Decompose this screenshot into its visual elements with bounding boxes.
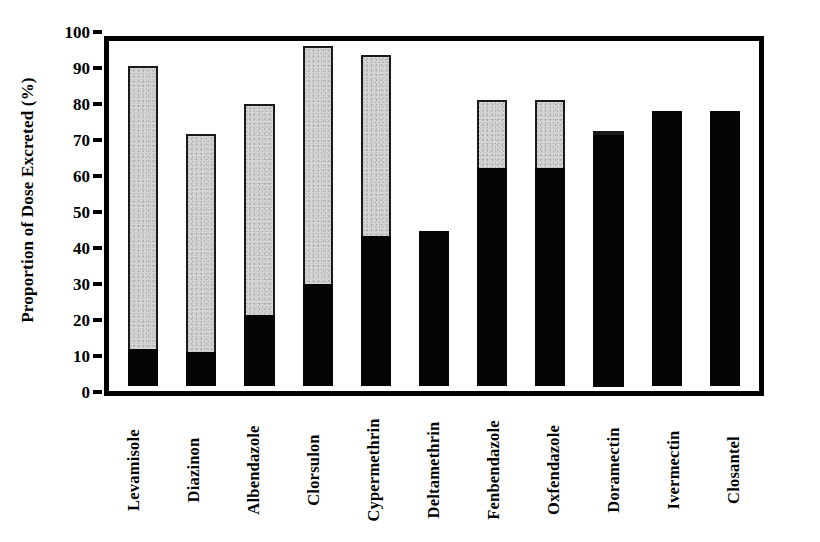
plot-area: [104, 36, 764, 396]
bar-group[interactable]: [361, 46, 391, 386]
x-tick-label: Doramectin: [584, 398, 644, 542]
y-tick-mark: [93, 138, 102, 142]
bar-group[interactable]: [186, 46, 216, 386]
x-tick-label-text: Levamisole: [124, 429, 144, 511]
x-tick-label-text: Doramectin: [604, 427, 624, 512]
bar-segment-black: [535, 168, 565, 386]
y-tick-label: 50: [73, 204, 90, 221]
x-axis-tick-labels: LevamisoleDiazinonAlbendazoleClorsulonCy…: [104, 398, 764, 542]
x-tick-label: Clorsulon: [284, 398, 344, 542]
x-tick-label-text: Diazinon: [184, 438, 204, 503]
y-tick-label: 0: [82, 384, 91, 401]
y-tick-label: 80: [73, 96, 90, 113]
bar-segment-black: [652, 111, 682, 386]
bar-stack[interactable]: [593, 131, 623, 386]
y-tick-label: 70: [73, 132, 90, 149]
bar-segment-gray: [303, 46, 333, 284]
x-tick-label-text: Closantel: [724, 436, 744, 504]
bar-stack[interactable]: [361, 55, 391, 387]
x-tick-label-text: Clorsulon: [304, 434, 324, 505]
bar-stack[interactable]: [419, 231, 449, 386]
x-tick-label: Fenbendazole: [464, 398, 524, 542]
x-tick-label: Oxfendazole: [524, 398, 584, 542]
bar-segment-black: [128, 349, 158, 386]
bar-segment-gray: [535, 100, 565, 168]
bar-segment-black: [593, 135, 623, 387]
x-tick-label: Levamisole: [104, 398, 164, 542]
bar-segment-gray: [477, 100, 507, 168]
bar-group[interactable]: [710, 46, 740, 386]
y-tick-label: 20: [73, 312, 90, 329]
bar-stack[interactable]: [710, 111, 740, 386]
bar-stack[interactable]: [477, 100, 507, 386]
bar-segment-black: [477, 168, 507, 386]
bar-segment-black: [186, 352, 216, 386]
y-tick-mark: [93, 30, 102, 34]
bar-segment-gray: [361, 55, 391, 237]
x-tick-label-text: Cypermethrin: [364, 418, 384, 521]
bar-stack[interactable]: [244, 104, 274, 386]
x-tick-label-text: Albendazole: [244, 425, 264, 514]
y-tick-mark: [93, 354, 102, 358]
y-axis-tick-labels: 1009080706050403020100: [44, 32, 102, 392]
x-tick-label-text: Deltamethrin: [424, 422, 444, 519]
y-tick-mark: [93, 66, 102, 70]
x-tick-label: Ivermectin: [644, 398, 704, 542]
bar-group[interactable]: [303, 46, 333, 386]
x-tick-label: Albendazole: [224, 398, 284, 542]
bars-layer: [114, 46, 754, 386]
bar-group[interactable]: [652, 46, 682, 386]
y-tick-label: 60: [73, 168, 90, 185]
y-tick-label: 100: [65, 24, 91, 41]
x-tick-label: Cypermethrin: [344, 398, 404, 542]
x-tick-label: Diazinon: [164, 398, 224, 542]
bar-segment-gray: [244, 104, 274, 315]
bar-stack[interactable]: [652, 111, 682, 386]
bar-segment-black: [303, 284, 333, 386]
y-tick-mark: [93, 210, 102, 214]
y-tick-label: 90: [73, 60, 90, 77]
x-tick-label: Closantel: [704, 398, 764, 542]
y-tick-label: 40: [73, 240, 90, 257]
bar-group[interactable]: [128, 46, 158, 386]
bar-segment-black: [361, 236, 391, 386]
x-tick-label-text: Oxfendazole: [544, 425, 564, 515]
x-tick-label-text: Ivermectin: [664, 431, 684, 510]
y-tick-label: 10: [73, 348, 90, 365]
stacked-bar-chart-figure: Proportion of Dose Excreted (%) 10090807…: [0, 0, 820, 542]
bar-stack[interactable]: [535, 100, 565, 386]
y-tick-mark: [93, 174, 102, 178]
bar-stack[interactable]: [186, 134, 216, 386]
bar-segment-black: [419, 231, 449, 386]
bar-group[interactable]: [244, 46, 274, 386]
bar-stack[interactable]: [303, 46, 333, 386]
bar-segment-black: [710, 111, 740, 386]
y-tick-mark: [93, 282, 102, 286]
bar-segment-black: [244, 315, 274, 386]
bar-segment-gray: [186, 134, 216, 352]
y-tick-mark: [93, 390, 102, 394]
x-tick-label: Deltamethrin: [404, 398, 464, 542]
y-tick-mark: [93, 318, 102, 322]
bar-stack[interactable]: [128, 66, 158, 386]
y-tick-label: 30: [73, 276, 90, 293]
y-axis-title-text: Proportion of Dose Excreted (%): [18, 77, 38, 322]
bar-group[interactable]: [419, 46, 449, 386]
x-tick-label-text: Fenbendazole: [484, 420, 504, 520]
bar-group[interactable]: [535, 46, 565, 386]
y-tick-mark: [93, 246, 102, 250]
bar-group[interactable]: [593, 46, 623, 386]
y-tick-mark: [93, 102, 102, 106]
bar-group[interactable]: [477, 46, 507, 386]
bar-segment-gray: [128, 66, 158, 348]
